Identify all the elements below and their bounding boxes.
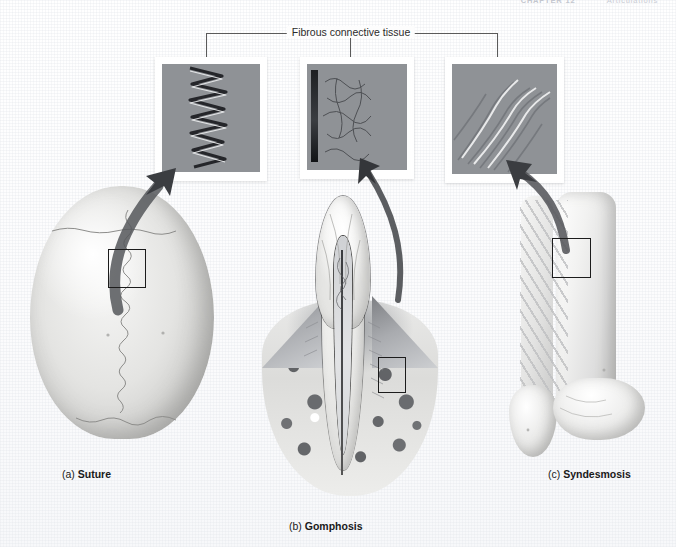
selection-box-gomphosis: [378, 357, 406, 393]
callout-label-fibrous-connective-tissue: Fibrous connective tissue: [287, 26, 415, 38]
inset-panel-syndesmosis: [445, 57, 564, 183]
part-index-b: (b): [289, 520, 302, 532]
selection-box-suture: [108, 249, 146, 288]
selection-box-syndesmosis: [552, 238, 591, 278]
micrograph-suture: [162, 64, 260, 172]
part-label-suture: (a) Suture: [62, 468, 111, 480]
part-label-syndesmosis: (c) Syndesmosis: [548, 468, 631, 480]
part-index-c: (c): [548, 468, 560, 480]
interosseous-membrane: [520, 200, 568, 414]
suture-interdigitation-pattern: [176, 64, 246, 172]
syndesmosis-fibre-bundles: [452, 64, 557, 174]
part-name-gomphosis: Gomphosis: [305, 520, 363, 532]
skull-cranium: [30, 186, 214, 439]
part-label-gomphosis: (b) Gomphosis: [289, 520, 363, 532]
bracket-drop-right: [497, 33, 498, 57]
running-header-chapter: CHAPTER 12: [521, 0, 576, 5]
running-header-title: Articulations: [607, 0, 658, 5]
micrograph-interosseous-membrane: [452, 64, 557, 174]
part-index-a: (a): [62, 468, 75, 480]
inset-panel-gomphosis: [300, 57, 414, 179]
micrograph-periodontal-ligament: [307, 64, 407, 170]
lateral-malleolus: [509, 385, 557, 457]
gomphosis-socket-detail: [307, 64, 407, 170]
running-header: CHAPTER 12 Articulations: [521, 0, 658, 5]
part-name-syndesmosis: Syndesmosis: [563, 468, 631, 480]
medial-malleolus: [553, 378, 645, 440]
bracket-drop-left: [206, 33, 207, 57]
root-canal-vessel: [341, 250, 343, 475]
part-name-suture: Suture: [78, 468, 111, 480]
inset-panel-suture: [155, 57, 267, 181]
anatomy-figure: CHAPTER 12 Articulations Fibrous connect…: [0, 0, 676, 547]
